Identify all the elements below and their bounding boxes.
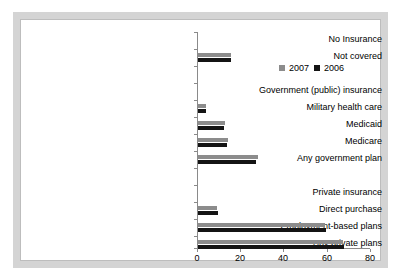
y-axis-tick [194, 151, 197, 152]
category-label-no-insurance: No Insurance [214, 34, 382, 44]
bar-2006-not-covered [198, 58, 231, 62]
figure-frame: No Insurance Not covered Government (pub… [13, 12, 388, 268]
legend-swatch-icon-2007 [279, 65, 285, 71]
x-tick-label-40: 40 [271, 253, 295, 263]
bar-chart: No Insurance Not covered Government (pub… [21, 20, 382, 262]
bar-2006-medicaid [198, 126, 224, 130]
y-axis-tick [194, 168, 197, 169]
chart-legend: 2007 2006 [279, 61, 344, 75]
y-axis-tick [194, 202, 197, 203]
category-label-not-covered: Not covered [214, 51, 382, 61]
y-axis-tick [194, 219, 197, 220]
bar-2007-direct-purchase [198, 206, 217, 210]
bar-2006-military-health-care [198, 109, 206, 113]
bar-2007-not-covered [198, 53, 231, 57]
x-tick-label-60: 60 [315, 253, 339, 263]
bar-2007-medicaid [198, 121, 225, 125]
y-axis-tick [194, 66, 197, 67]
legend-entry-2007: 2007 [279, 63, 309, 73]
category-label-government-insurance: Government (public) insurance [214, 85, 382, 95]
legend-label-2006: 2006 [324, 63, 344, 73]
bar-2007-employment-based-plans [198, 223, 325, 227]
bar-2007-any-government-plan [198, 155, 258, 159]
y-axis-tick [194, 49, 197, 50]
x-axis-tick [283, 249, 284, 252]
plot-border: No Insurance Not covered Government (pub… [20, 19, 381, 261]
category-label-private-insurance: Private insurance [214, 187, 382, 197]
x-axis-tick [197, 249, 198, 252]
legend-swatch-icon-2006 [314, 65, 320, 71]
y-axis-tick [194, 236, 197, 237]
bar-2006-any-government-plan [198, 160, 256, 164]
x-axis-tick [327, 249, 328, 252]
category-label-medicare: Medicare [214, 136, 382, 146]
category-label-direct-purchase: Direct purchase [214, 204, 382, 214]
bar-2007-any-private-plans [198, 240, 343, 244]
category-label-military-health-care: Military health care [214, 102, 382, 112]
legend-entry-2006: 2006 [314, 63, 344, 73]
x-axis-tick [370, 249, 371, 252]
category-label-medicaid: Medicaid [214, 119, 382, 129]
x-tick-label-20: 20 [228, 253, 252, 263]
x-tick-label-0: 0 [185, 253, 209, 263]
bar-2007-medicare [198, 138, 228, 142]
y-axis-tick [194, 185, 197, 186]
bar-2006-direct-purchase [198, 211, 218, 215]
y-axis-tick [194, 32, 197, 33]
x-tick-label-80: 80 [358, 253, 382, 263]
y-axis-tick [194, 134, 197, 135]
bar-2006-any-private-plans [198, 245, 344, 249]
y-axis-tick [194, 100, 197, 101]
x-axis-tick [240, 249, 241, 252]
bar-2006-medicare [198, 143, 227, 147]
bar-2007-military-health-care [198, 104, 206, 108]
legend-label-2007: 2007 [289, 63, 309, 73]
y-axis-tick [194, 83, 197, 84]
y-axis-tick [194, 117, 197, 118]
bar-2006-employment-based-plans [198, 228, 326, 232]
